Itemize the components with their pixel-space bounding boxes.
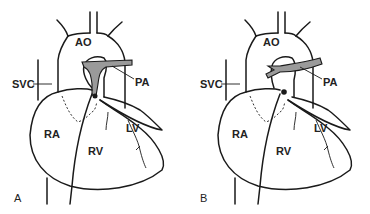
coronary-vessels: [294, 112, 334, 168]
panel-label-b: B: [200, 192, 207, 204]
label-svc: SVC: [200, 78, 223, 90]
label-ao: AO: [75, 36, 92, 48]
pa-leader: [112, 66, 134, 79]
label-ra: RA: [232, 128, 248, 140]
label-rv: RV: [88, 145, 104, 157]
panel-b: AO PA SVC RA RV LV B: [200, 12, 351, 204]
label-lv: LV: [314, 122, 328, 134]
ductus-dot: [93, 94, 98, 99]
panel-a: AO PA SVC RA RV LV A: [12, 12, 163, 204]
label-ao: AO: [263, 36, 280, 48]
hidden-outline: [250, 96, 285, 122]
pa-leader: [300, 67, 322, 79]
label-pa: PA: [323, 76, 338, 88]
label-pa: PA: [135, 76, 150, 88]
label-rv: RV: [276, 145, 292, 157]
heart-diagram-figure: AO PA SVC RA RV LV A AO PA SVC RA RV LV …: [0, 0, 370, 214]
label-lv: LV: [126, 122, 140, 134]
panel-label-a: A: [14, 192, 22, 204]
coronary-vessels: [106, 112, 146, 168]
label-ra: RA: [44, 128, 60, 140]
label-svc: SVC: [12, 78, 35, 90]
ductus-dot: [281, 89, 287, 95]
hidden-outline: [62, 96, 97, 122]
